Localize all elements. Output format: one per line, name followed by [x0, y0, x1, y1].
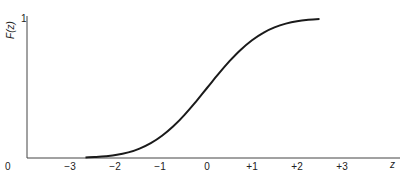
x-tick-label: 0 — [204, 161, 210, 172]
y-axis-label: F(z) — [5, 21, 16, 39]
x-tick-label: −3 — [64, 161, 76, 172]
cdf-chart: F(z) 1 0 z −3−2−10+1+2+3 — [0, 0, 405, 184]
x-tick-labels: −3−2−10+1+2+3 — [64, 161, 348, 172]
x-tick-label: +2 — [291, 161, 303, 172]
x-tick-label: +3 — [336, 161, 348, 172]
x-tick-label: −2 — [109, 161, 121, 172]
x-tick-label: −1 — [154, 161, 166, 172]
y-tick-label-top: 1 — [21, 13, 27, 24]
cdf-curve — [86, 19, 320, 158]
x-tick-label: +1 — [246, 161, 258, 172]
x-axis-label: z — [389, 159, 395, 170]
origin-label: 0 — [5, 161, 11, 172]
